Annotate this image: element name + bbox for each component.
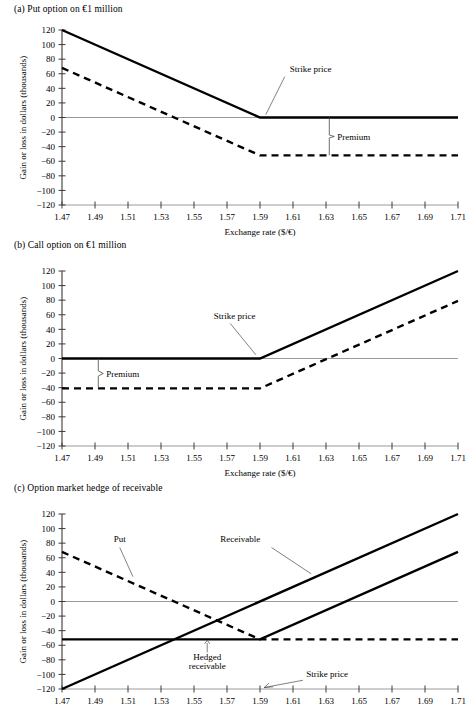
y-tick-label: 100 <box>42 40 56 50</box>
y-axis-title: Gain or loss in dollars (thousands) <box>18 56 28 180</box>
x-tick-label: 1.59 <box>252 453 268 463</box>
x-tick-label: 1.57 <box>219 453 235 463</box>
y-tick-label: −120 <box>36 200 55 210</box>
x-tick-label: 1.69 <box>417 453 433 463</box>
x-tick-label: 1.65 <box>351 212 367 222</box>
y-tick-label: −20 <box>41 368 56 378</box>
y-tick-label: −40 <box>41 142 56 152</box>
x-tick-label: 1.55 <box>186 453 202 463</box>
x-tick-label: 1.61 <box>285 453 301 463</box>
x-tick-label: 1.57 <box>219 696 235 704</box>
x-tick-label: 1.71 <box>450 212 466 222</box>
strike-price-leader <box>230 324 256 355</box>
y-tick-label: 100 <box>42 281 56 291</box>
y-tick-label: 80 <box>46 538 56 548</box>
y-tick-label: 40 <box>46 84 56 94</box>
x-tick-label: 1.65 <box>351 696 367 704</box>
x-tick-label: 1.71 <box>450 453 466 463</box>
y-tick-label: 120 <box>42 266 56 276</box>
premium-label: Premium <box>106 369 139 379</box>
x-tick-label: 1.47 <box>54 212 70 222</box>
x-tick-label: 1.65 <box>351 453 367 463</box>
series-put <box>62 552 458 640</box>
series-hedged-receivable <box>62 552 458 640</box>
x-tick-label: 1.59 <box>252 212 268 222</box>
x-tick-label: 1.71 <box>450 696 466 704</box>
y-tick-label: −20 <box>41 611 56 621</box>
x-tick-label: 1.67 <box>384 453 400 463</box>
strike-price-label: Strike price <box>290 64 332 74</box>
y-tick-label: 20 <box>46 339 56 349</box>
x-tick-label: 1.51 <box>120 212 136 222</box>
y-tick-label: −100 <box>36 186 55 196</box>
panel-a-chart: −120−100−80−60−40−200204060801001201.471… <box>0 0 469 232</box>
y-tick-label: −80 <box>41 655 56 665</box>
x-tick-label: 1.55 <box>186 212 202 222</box>
y-tick-label: 80 <box>46 295 56 305</box>
x-tick-label: 1.63 <box>318 212 334 222</box>
y-axis-title: Gain or loss in dollars (thousands) <box>18 297 28 421</box>
y-tick-label: 120 <box>42 509 56 519</box>
put-leader <box>120 548 133 577</box>
y-tick-label: −100 <box>36 427 55 437</box>
hedged-receivable-leader <box>205 640 210 652</box>
x-tick-label: 1.47 <box>54 696 70 704</box>
y-axis-title: Gain or loss in dollars (thousands) <box>18 540 28 664</box>
y-tick-label: −40 <box>41 626 56 636</box>
strike-price-leader <box>264 680 303 687</box>
x-tick-label: 1.49 <box>87 453 103 463</box>
receivable-label: Receivable <box>220 534 260 544</box>
x-tick-label: 1.51 <box>120 453 136 463</box>
x-tick-label: 1.67 <box>384 212 400 222</box>
y-tick-label: 40 <box>46 568 56 578</box>
panel-put-option: (a) Put option on €1 million −120−100−80… <box>0 0 469 232</box>
x-tick-label: 1.61 <box>285 212 301 222</box>
y-tick-label: −120 <box>36 684 55 694</box>
x-tick-label: 1.69 <box>417 212 433 222</box>
series-put-option-gross-payoff <box>62 30 458 118</box>
strike-price-label: Strike price <box>214 311 256 321</box>
y-tick-label: 60 <box>46 310 56 320</box>
series-put-option-net-of-premium <box>62 68 458 156</box>
y-tick-label: 60 <box>46 69 56 79</box>
x-tick-label: 1.63 <box>318 696 334 704</box>
strike-price-leader <box>266 77 285 115</box>
premium-label: Premium <box>337 132 370 142</box>
y-tick-label: −80 <box>41 412 56 422</box>
x-tick-label: 1.67 <box>384 696 400 704</box>
y-tick-label: −80 <box>41 171 56 181</box>
y-tick-label: 0 <box>51 597 56 607</box>
x-tick-label: 1.61 <box>285 696 301 704</box>
strike-price-label: Strike price <box>306 669 348 679</box>
x-tick-label: 1.53 <box>153 212 169 222</box>
y-tick-label: −20 <box>41 127 56 137</box>
panel-option-hedge: (c) Option market hedge of receivable −1… <box>0 470 469 704</box>
x-tick-label: 1.49 <box>87 212 103 222</box>
x-tick-label: 1.51 <box>120 696 136 704</box>
y-tick-label: 40 <box>46 325 56 335</box>
x-tick-label: 1.53 <box>153 453 169 463</box>
y-tick-label: 120 <box>42 25 56 35</box>
x-tick-label: 1.47 <box>54 453 70 463</box>
y-tick-label: 20 <box>46 98 56 108</box>
y-tick-label: −120 <box>36 441 55 451</box>
y-tick-label: 60 <box>46 553 56 563</box>
y-tick-label: −60 <box>41 156 56 166</box>
put-label: Put <box>114 534 127 544</box>
y-tick-label: 100 <box>42 524 56 534</box>
x-tick-label: 1.53 <box>153 696 169 704</box>
y-tick-label: 20 <box>46 582 56 592</box>
receivable-leader <box>272 548 312 574</box>
y-tick-label: −100 <box>36 670 55 680</box>
x-tick-label: 1.55 <box>186 696 202 704</box>
panel-b-chart: −120−100−80−60−40−200204060801001201.471… <box>0 232 469 470</box>
x-tick-label: 1.63 <box>318 453 334 463</box>
y-tick-label: −40 <box>41 383 56 393</box>
y-tick-label: −60 <box>41 397 56 407</box>
hedged-receivable-label-line2: receivable <box>189 661 226 671</box>
series-call-option-gross-payoff <box>62 271 458 359</box>
x-tick-label: 1.57 <box>219 212 235 222</box>
y-tick-label: −60 <box>41 640 56 650</box>
y-tick-label: 0 <box>51 354 56 364</box>
y-tick-label: 80 <box>46 54 56 64</box>
